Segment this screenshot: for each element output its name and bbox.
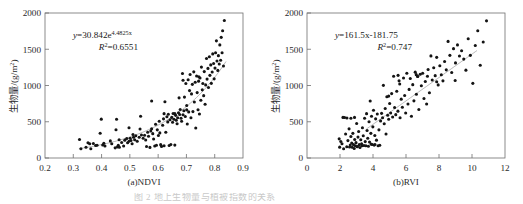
data-point bbox=[191, 83, 194, 86]
data-point bbox=[427, 91, 430, 94]
data-point bbox=[392, 75, 395, 78]
data-point bbox=[183, 96, 186, 99]
data-point bbox=[221, 51, 224, 54]
data-point bbox=[139, 115, 142, 118]
data-point bbox=[205, 57, 208, 60]
data-point bbox=[161, 124, 164, 127]
data-point bbox=[210, 82, 213, 85]
data-point bbox=[189, 116, 192, 119]
data-point bbox=[337, 137, 340, 140]
data-point bbox=[204, 103, 207, 106]
data-point bbox=[196, 91, 199, 94]
data-point bbox=[361, 134, 364, 137]
data-point bbox=[421, 72, 424, 75]
data-point bbox=[451, 47, 454, 50]
data-point bbox=[443, 60, 446, 63]
data-point bbox=[88, 142, 91, 145]
data-point bbox=[354, 141, 357, 144]
data-point bbox=[127, 140, 130, 143]
data-point bbox=[180, 120, 183, 123]
data-point bbox=[363, 117, 366, 120]
data-point bbox=[435, 80, 438, 83]
data-point bbox=[446, 40, 449, 43]
chart-panel-ndvi: 0500100015002000 0.20.30.40.50.60.70.80.… bbox=[0, 0, 262, 204]
data-point bbox=[425, 75, 428, 78]
data-point bbox=[386, 114, 389, 117]
data-point bbox=[404, 112, 407, 115]
data-point bbox=[206, 78, 209, 81]
x-tick-label: 0.2 bbox=[39, 163, 51, 173]
data-point bbox=[167, 113, 170, 116]
data-point bbox=[468, 54, 471, 57]
data-point bbox=[178, 96, 181, 99]
data-point bbox=[208, 74, 211, 77]
data-point bbox=[409, 115, 412, 118]
data-point bbox=[142, 137, 145, 140]
data-point bbox=[398, 83, 401, 86]
data-point bbox=[163, 144, 166, 147]
data-point bbox=[387, 95, 390, 98]
data-point bbox=[212, 62, 215, 65]
x-axis-ticks bbox=[340, 154, 472, 158]
data-point bbox=[214, 51, 217, 54]
y-axis-ticks bbox=[45, 13, 49, 158]
data-point bbox=[173, 144, 176, 147]
data-point bbox=[79, 147, 82, 150]
y-axis-tick-labels: 0500100015002000 bbox=[284, 8, 303, 163]
data-point bbox=[138, 136, 141, 139]
data-point bbox=[481, 40, 484, 43]
data-point bbox=[151, 132, 154, 135]
data-point bbox=[100, 118, 103, 121]
data-point bbox=[131, 133, 134, 136]
data-point bbox=[206, 67, 209, 70]
data-point bbox=[181, 79, 184, 82]
data-point bbox=[455, 43, 458, 46]
data-point bbox=[163, 112, 166, 115]
data-point bbox=[379, 119, 382, 122]
data-point bbox=[155, 144, 158, 147]
x-tick-label: 10 bbox=[467, 163, 477, 173]
data-point bbox=[189, 73, 192, 76]
data-point bbox=[192, 70, 195, 73]
data-point bbox=[166, 120, 169, 123]
data-point bbox=[140, 133, 143, 136]
y-tick-label: 1500 bbox=[23, 45, 42, 55]
data-point bbox=[118, 138, 121, 141]
data-point bbox=[173, 112, 176, 115]
x-axis-tick-labels: 0.20.30.40.50.60.70.80.9 bbox=[39, 163, 249, 173]
data-point bbox=[202, 94, 205, 97]
data-point bbox=[412, 99, 415, 102]
data-point bbox=[453, 79, 456, 82]
data-point bbox=[473, 44, 476, 47]
data-point bbox=[213, 77, 216, 80]
data-point bbox=[369, 132, 372, 135]
data-point bbox=[109, 139, 112, 142]
data-point bbox=[357, 130, 360, 133]
data-point bbox=[150, 99, 153, 102]
data-point bbox=[476, 29, 479, 32]
data-point bbox=[163, 100, 166, 103]
data-point bbox=[351, 132, 354, 135]
data-point bbox=[349, 135, 352, 138]
data-point bbox=[218, 62, 221, 65]
y-tick-label: 0 bbox=[36, 153, 41, 163]
data-point bbox=[400, 106, 403, 109]
data-point bbox=[219, 59, 222, 62]
data-point bbox=[360, 144, 363, 147]
data-point bbox=[208, 55, 211, 58]
x-axis-title: (b)RVI bbox=[393, 177, 419, 187]
data-point bbox=[146, 131, 149, 134]
x-tick-label: 6 bbox=[403, 163, 408, 173]
data-point bbox=[342, 147, 345, 150]
data-point bbox=[197, 80, 200, 83]
data-point bbox=[175, 119, 178, 122]
data-point bbox=[213, 67, 216, 70]
data-point bbox=[345, 145, 348, 148]
data-point bbox=[84, 146, 87, 149]
y-axis-tick-labels: 0500100015002000 bbox=[23, 8, 42, 163]
data-point bbox=[134, 134, 137, 137]
data-point bbox=[396, 74, 399, 77]
data-point bbox=[377, 128, 380, 131]
data-point bbox=[373, 143, 376, 146]
data-point bbox=[345, 116, 348, 119]
